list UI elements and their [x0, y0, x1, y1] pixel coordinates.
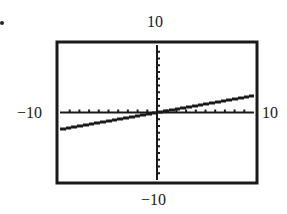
graph-plot [0, 0, 287, 214]
